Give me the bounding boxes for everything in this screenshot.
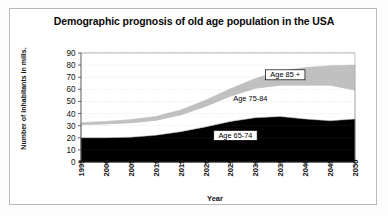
x-tick-label: 1995: [77, 159, 86, 177]
x-tick-label: 2005: [127, 159, 136, 177]
x-tick-label: 2000: [102, 160, 111, 177]
x-tick-label: 2050: [351, 160, 360, 177]
x-tick-label: 2025: [226, 159, 235, 177]
y-tick-label: 50: [66, 97, 76, 106]
series-label: Age 65-74: [218, 131, 252, 140]
y-tick-label: 80: [66, 61, 76, 70]
x-tick-label: 2020: [202, 160, 211, 177]
y-tick-label: 60: [66, 85, 76, 94]
x-tick-label: 2040: [301, 160, 310, 177]
y-tick-label: 40: [66, 110, 76, 119]
x-tick-label: 2030: [251, 160, 260, 177]
y-axis-ticks: 0102030405060708090: [66, 49, 81, 167]
y-tick-label: 90: [66, 49, 76, 58]
x-tick-label: 2015: [177, 159, 186, 177]
area-chart-svg: 0102030405060708090 19952000200520102015…: [0, 0, 388, 216]
y-tick-label: 0: [71, 158, 76, 167]
y-tick-label: 30: [66, 122, 76, 131]
x-tick-label: 2010: [152, 160, 161, 177]
chart-figure: Demographic prognosis of old age populat…: [0, 0, 388, 216]
x-tick-label: 2035: [276, 159, 285, 177]
y-tick-label: 10: [66, 146, 76, 155]
series-label: Age 85 +: [270, 70, 300, 79]
series-label: Age 75-84: [233, 94, 267, 103]
x-tick-label: 2045: [326, 159, 335, 177]
y-tick-label: 70: [66, 73, 76, 82]
plot-area: 0102030405060708090 19952000200520102015…: [0, 0, 388, 216]
y-tick-label: 20: [66, 134, 76, 143]
